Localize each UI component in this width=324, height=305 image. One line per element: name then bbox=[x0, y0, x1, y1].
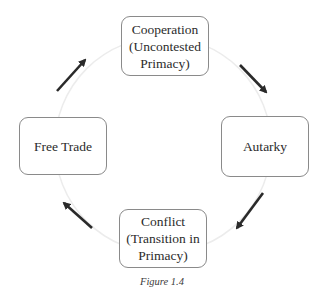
node-free-trade: Free Trade bbox=[19, 117, 107, 175]
arrow-conflict-to-free-trade bbox=[64, 203, 92, 228]
node-cooperation-subtitle-2: Primacy) bbox=[140, 55, 190, 72]
node-conflict-title: Conflict bbox=[141, 213, 185, 230]
node-conflict-subtitle-2: Primacy) bbox=[138, 247, 188, 264]
node-cooperation-subtitle-1: (Uncontested bbox=[129, 38, 201, 55]
arrow-autarky-to-conflict bbox=[237, 193, 263, 228]
figure-caption: Figure 1.4 bbox=[0, 276, 324, 287]
arrow-cooperation-to-autarky bbox=[240, 65, 266, 92]
node-cooperation: Cooperation (Uncontested Primacy) bbox=[121, 16, 209, 76]
node-cooperation-title: Cooperation bbox=[132, 21, 199, 38]
node-conflict-subtitle-1: (Transition in bbox=[126, 230, 199, 247]
node-autarky: Autarky bbox=[221, 116, 309, 177]
node-autarky-title: Autarky bbox=[243, 138, 287, 155]
node-free-trade-title: Free Trade bbox=[34, 138, 92, 155]
node-conflict: Conflict (Transition in Primacy) bbox=[119, 209, 207, 268]
